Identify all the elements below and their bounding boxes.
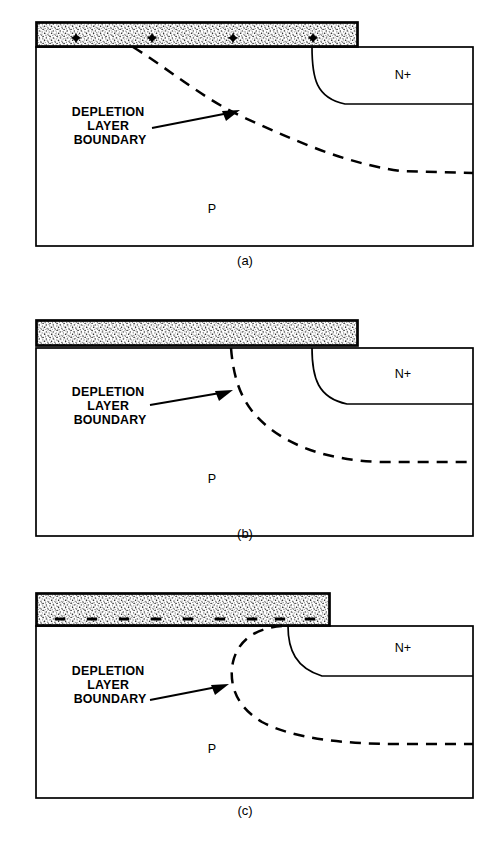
negative-charge-icon [55,618,65,621]
n-plus-region-label-c: N+ [395,641,411,655]
figure-root: DEPLETION LAYER BOUNDARY P N+ (a) DEPLET… [0,0,497,842]
callout-line-2-c: LAYER [87,678,129,692]
panel-caption-a: (a) [237,253,253,268]
negative-charge-icon [247,618,257,621]
depletion-layer-figure: DEPLETION LAYER BOUNDARY P N+ (a) DEPLET… [0,0,497,842]
negative-charge-icon [151,618,161,621]
p-region-label-a: P [208,202,216,216]
negative-charge-icon [183,618,193,621]
negative-charge-icon [87,618,97,621]
p-region-label-b: P [208,472,216,486]
callout-line-3-a: BOUNDARY [74,133,147,147]
callout-line-2-b: LAYER [87,399,129,413]
gate-charge-symbols-c [55,618,315,621]
callout-line-1-c: DEPLETION [72,664,145,678]
panel-caption-b: (b) [237,526,253,541]
n-plus-region-label-a: N+ [395,68,411,82]
callout-line-2-a: LAYER [87,119,129,133]
callout-line-1-b: DEPLETION [72,385,145,399]
panel-a: DEPLETION LAYER BOUNDARY P N+ (a) [36,22,473,268]
p-region-label-c: P [208,742,216,756]
negative-charge-icon [215,618,225,621]
panel-b: DEPLETION LAYER BOUNDARY P N+ (b) [36,320,473,541]
negative-charge-icon [119,618,129,621]
panel-caption-c: (c) [237,803,252,818]
gate-oxide-stipple-a [37,23,357,46]
negative-charge-icon [275,618,285,621]
callout-line-3-c: BOUNDARY [74,692,147,706]
n-plus-region-label-b: N+ [395,367,411,381]
gate-oxide-stipple-b [37,321,357,345]
negative-charge-icon [305,618,315,621]
callout-line-3-b: BOUNDARY [74,413,147,427]
callout-line-1-a: DEPLETION [72,105,145,119]
panel-c: DEPLETION LAYER BOUNDARY P N+ (c) [36,593,473,818]
